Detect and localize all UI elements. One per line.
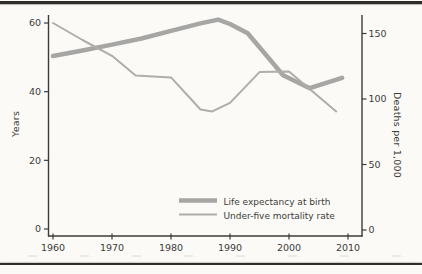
scan-artifacts [28,255,408,257]
x-axis-tick-label: 2010 [336,242,360,253]
x-axis-tick-label: 1960 [41,242,65,253]
right-axis-tick-label: 100 [369,93,387,104]
legend-label-under-five-mortality-rate: Under-five mortality rate [224,211,336,221]
right-axis-tick-label: 150 [369,28,387,39]
right-axis-tick-label: 0 [369,224,375,235]
left-axis-tick-label: 60 [29,17,41,28]
series-line-under-five-mortality-rate [53,23,336,111]
scanned-page: 0204060050100150196019701980199020002010… [0,0,422,274]
left-axis-tick-label: 20 [29,155,41,166]
bottom-rule [0,263,422,265]
series-line-life-expectancy-at-birth [53,20,342,89]
chart-canvas: 0204060050100150196019701980199020002010… [0,0,422,274]
x-axis-tick-label: 1990 [218,242,242,253]
left-axis-tick-label: 0 [35,223,41,234]
legend-label-life-expectancy-at-birth: Life expectancy at birth [224,197,331,207]
right-axis-title: Deaths per 1,000 [392,92,403,178]
left-axis-title: Years [10,111,21,138]
x-axis-tick-label: 2000 [277,242,301,253]
x-axis-tick-label: 1980 [159,242,183,253]
right-axis-tick-label: 50 [369,159,381,170]
x-axis-tick-label: 1970 [100,242,124,253]
left-axis-tick-label: 40 [29,86,41,97]
